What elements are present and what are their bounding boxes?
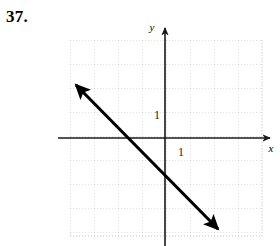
coordinate-plane-figure: y x 1 1: [0, 0, 280, 246]
x-unit-tick-label: 1: [178, 145, 184, 159]
y-axis-label: y: [149, 21, 155, 33]
y-unit-tick-label: 1: [154, 108, 160, 122]
x-axis-label: x: [268, 142, 274, 154]
exercise-figure-page: 37. y x 1 1: [0, 0, 280, 246]
